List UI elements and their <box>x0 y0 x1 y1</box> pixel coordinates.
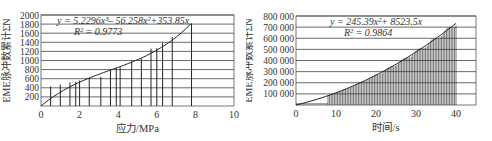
y-tick-label: 500 000 <box>263 45 294 55</box>
y-tick-label: 700 000 <box>263 23 294 33</box>
chart-time-vs-eme: 100 000200 000300 000400 000500 000600 0… <box>246 0 492 141</box>
fit-equation: y = 245.39x²+ 8523.5x <box>329 16 423 27</box>
y-axis-title: EME脉冲数累计ΣN <box>246 18 254 102</box>
fit-equation: y = 5.2296x³– 56.258x²+353.85x <box>56 15 190 26</box>
x-tick-label: 10 <box>331 108 341 119</box>
chart-1-canvas: 2004006008001000120014001600180020000246… <box>0 0 246 141</box>
y-tick-label: 1000 <box>20 56 39 66</box>
x-tick-label: 8 <box>193 109 198 120</box>
x-tick-label: 0 <box>39 109 44 120</box>
y-tick-label: 800 <box>25 65 40 75</box>
y-tick-label: 200 <box>25 92 40 102</box>
x-tick-label: 30 <box>411 108 421 119</box>
x-axis-title: 应力/MPa <box>116 122 159 134</box>
r-squared-label: R² = 0.9864 <box>343 27 392 38</box>
x-axis-title: 时间/s <box>372 121 399 133</box>
y-tick-label: 2000 <box>20 11 39 21</box>
x-tick-label: 0 <box>294 108 299 119</box>
y-tick-label: 400 000 <box>263 56 294 66</box>
y-tick-label: 300 000 <box>263 67 294 77</box>
y-axis-title: EME脉冲数累计ΣN <box>0 18 12 102</box>
y-tick-label: 400 <box>25 83 40 93</box>
x-tick-label: 6 <box>154 109 159 120</box>
x-tick-label: 20 <box>371 108 381 119</box>
x-tick-label: 4 <box>116 109 121 120</box>
y-tick-label: 1600 <box>20 29 39 39</box>
chart-2-canvas: 100 000200 000300 000400 000500 000600 0… <box>246 0 492 141</box>
y-tick-label: 600 <box>25 74 40 84</box>
y-tick-label: 1200 <box>20 47 39 57</box>
y-tick-label: 1800 <box>20 20 39 30</box>
x-tick-label: 40 <box>451 108 461 119</box>
y-tick-label: 100 000 <box>263 89 294 99</box>
r-squared-label: R² = 0.9773 <box>73 26 122 37</box>
y-tick-label: 600 000 <box>263 34 294 44</box>
x-tick-label: 10 <box>229 109 239 120</box>
y-tick-label: 200 000 <box>263 78 294 88</box>
x-tick-label: 2 <box>77 109 82 120</box>
y-tick-label: 800 000 <box>263 12 294 22</box>
y-tick-label: 1400 <box>20 38 39 48</box>
chart-stress-vs-eme: 2004006008001000120014001600180020000246… <box>0 0 246 141</box>
